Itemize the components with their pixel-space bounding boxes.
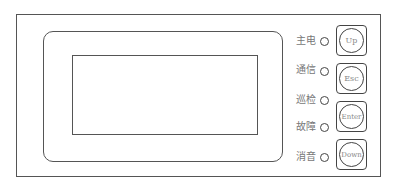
indicator-label-communication: 通信 [296, 64, 316, 76]
lcd-screen [72, 55, 258, 135]
led-main-power-icon [320, 37, 329, 46]
led-communication-icon [320, 67, 329, 76]
indicator-label-fault: 故障 [296, 121, 316, 133]
enter-button[interactable]: Enter [336, 101, 367, 132]
led-fault-icon [320, 123, 329, 132]
indicator-label-silence: 消音 [296, 151, 316, 163]
indicator-label-inspection: 巡检 [296, 94, 316, 106]
down-button-label: Down [339, 142, 364, 167]
indicator-label-main-power: 主电 [296, 35, 316, 47]
enter-button-label: Enter [339, 104, 364, 129]
led-silence-icon [320, 153, 329, 162]
up-button[interactable]: Up [336, 25, 367, 56]
esc-button[interactable]: Esc [336, 63, 367, 94]
down-button[interactable]: Down [336, 139, 367, 170]
led-inspection-icon [320, 96, 329, 105]
up-button-label: Up [339, 28, 364, 53]
esc-button-label: Esc [339, 66, 364, 91]
